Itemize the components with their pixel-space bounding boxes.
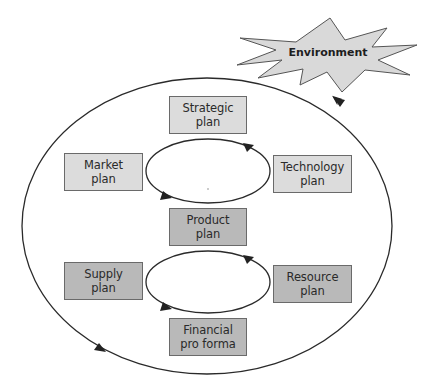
financial-pro-forma-line2: pro forma bbox=[180, 337, 235, 351]
financial-pro-forma-box: Financial pro forma bbox=[169, 318, 247, 356]
resource-plan-line1: Resource bbox=[287, 270, 339, 284]
market-plan-line1: Market bbox=[84, 158, 123, 172]
strategic-plan-line1: Strategic bbox=[182, 101, 233, 115]
lower-arrow-top-right-icon bbox=[243, 255, 254, 264]
supply-plan-box: Supply plan bbox=[64, 262, 143, 300]
environment-label: Environment bbox=[282, 46, 374, 59]
supply-plan-line2: plan bbox=[91, 281, 115, 295]
market-plan-box: Market plan bbox=[64, 153, 143, 191]
technology-plan-box: Technology plan bbox=[273, 155, 352, 193]
market-plan-line2: plan bbox=[91, 172, 115, 186]
upper-arrow-top-right-icon bbox=[243, 143, 254, 152]
product-plan-line2: plan bbox=[196, 227, 220, 241]
product-plan-box: Product plan bbox=[169, 208, 247, 246]
technology-plan-line2: plan bbox=[300, 174, 324, 188]
resource-plan-line2: plan bbox=[300, 284, 324, 298]
supply-plan-line1: Supply bbox=[84, 267, 123, 281]
strategic-plan-line2: plan bbox=[196, 115, 220, 129]
outer-arrow-top-right-icon bbox=[333, 97, 347, 108]
strategic-plan-box: Strategic plan bbox=[169, 96, 247, 134]
financial-pro-forma-line1: Financial bbox=[183, 323, 232, 337]
product-plan-line1: Product bbox=[187, 213, 230, 227]
planning-cycle-diagram: Environment Strategic plan Market plan T… bbox=[0, 0, 435, 390]
stray-dot bbox=[207, 188, 209, 190]
resource-plan-box: Resource plan bbox=[273, 265, 352, 303]
technology-plan-line1: Technology bbox=[281, 160, 344, 174]
